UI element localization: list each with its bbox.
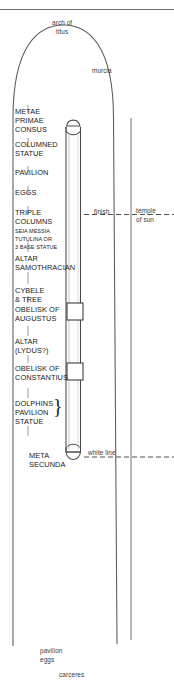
label-dolphins: DOLPHINS xyxy=(15,400,53,408)
label-dolphins-statue: STATUE xyxy=(15,418,43,426)
label-and-tree: & TREE xyxy=(15,296,42,304)
label-pavilion-bottom: pavilion xyxy=(40,648,62,655)
label-cybele: CYBELE xyxy=(15,287,44,295)
label-arch-of-titus-line2: titus xyxy=(56,29,68,36)
label-temple-of-sun-line1: temple xyxy=(136,208,156,215)
label-consus: CONSUS xyxy=(15,126,47,134)
label-dolphins-pavilion: PAVILION xyxy=(15,409,48,417)
label-altar-lydus-line1: ALTAR xyxy=(15,338,38,346)
label-murcia: murcia xyxy=(92,68,112,75)
obelisk-of-constantius-marker xyxy=(67,363,83,380)
label-arch-of-titus-line1: arch of xyxy=(52,20,72,27)
label-carceres: carceres xyxy=(59,672,84,679)
meta-prima-cap xyxy=(67,120,81,126)
label-secunda: SECUNDA xyxy=(29,461,66,469)
meta-prima-base-scallop xyxy=(66,127,81,135)
track-right-wall xyxy=(114,118,118,644)
label-tutulina: TUTULINA OR xyxy=(15,237,52,243)
label-altar: ALTAR xyxy=(15,255,38,263)
label-obelisk-of-augustus-line2: AUGUSTUS xyxy=(15,315,56,323)
label-temple-of-sun-line2: of sun xyxy=(136,217,154,224)
label-3-base-statue: 3 BASE STATUE xyxy=(15,245,57,251)
label-eggs-bottom: eggs xyxy=(40,657,54,664)
label-primae: PRIMAE xyxy=(15,117,44,125)
label-meta: META xyxy=(29,452,49,460)
label-pavilion: PAVILION xyxy=(15,169,48,177)
circus-maximus-plan-page: arch of titus murcia METAE PRIMAE CONSUS… xyxy=(0,0,174,686)
label-samothracian: SAMOTHRACIAN xyxy=(15,264,75,272)
label-eggs: EGGS xyxy=(15,189,37,197)
label-statue: STATUE xyxy=(15,150,43,158)
label-obelisk-of-augustus-line1: OBELISK OF xyxy=(15,306,59,314)
label-triple: TRIPLE xyxy=(15,209,41,217)
obelisk-of-augustus-marker xyxy=(67,303,83,320)
label-seia-messia: SEIA MESSIA xyxy=(15,229,50,235)
label-obelisk-of-constantius-line1: OBELISK OF xyxy=(15,365,59,373)
label-altar-lydus-line2: (LYDUS?) xyxy=(15,347,49,355)
label-columned: COLUMNED xyxy=(15,141,58,149)
dolphins-group-brace: } xyxy=(53,396,63,416)
label-white-line: white line xyxy=(88,450,116,457)
label-obelisk-of-constantius-line2: CONSTANTIUS xyxy=(15,374,68,382)
label-metae: METAE xyxy=(15,108,40,116)
label-finish: finish xyxy=(94,209,110,216)
meta-secunda-cap xyxy=(66,452,81,460)
label-columns: COLUMNS xyxy=(15,218,52,226)
